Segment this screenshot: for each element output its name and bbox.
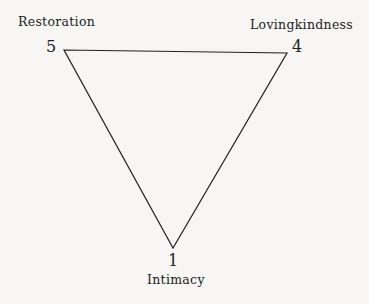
vertex-number-intimacy: 1: [168, 251, 178, 270]
vertex-number-lovingkindness: 4: [292, 37, 302, 56]
vertex-label-restoration: Restoration: [18, 14, 95, 29]
vertex-number-restoration: 5: [46, 37, 56, 56]
vertex-label-intimacy: Intimacy: [147, 272, 205, 287]
vertex-label-lovingkindness: Lovingkindness: [250, 17, 353, 32]
triangle-shape: [64, 50, 287, 248]
